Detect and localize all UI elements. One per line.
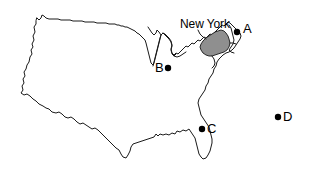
map-point-c-dot[interactable] xyxy=(199,126,205,132)
new-york-leader-line xyxy=(198,30,206,39)
map-point-d-dot[interactable] xyxy=(275,114,281,120)
map-point-a-label: A xyxy=(243,22,252,35)
map-point-b-dot[interactable] xyxy=(165,65,171,71)
map-point-b-label: B xyxy=(155,61,164,74)
map-svg xyxy=(0,0,311,171)
new-york-label: New York xyxy=(180,18,230,30)
united-states-map-figure: New York A B C D xyxy=(0,0,311,171)
map-point-c-label: C xyxy=(207,122,216,135)
map-point-d-label: D xyxy=(283,110,292,123)
map-point-a-dot[interactable] xyxy=(234,29,240,35)
